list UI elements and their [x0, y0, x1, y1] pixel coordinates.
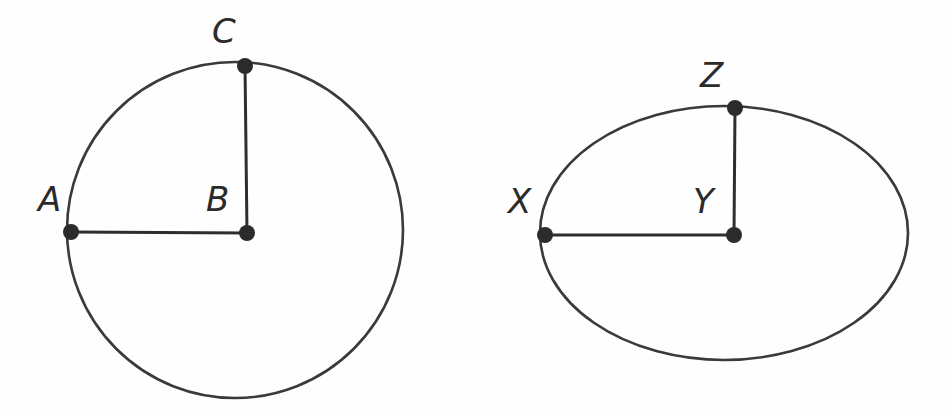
point-z-label: Z [700, 58, 723, 92]
segment-ab [71, 232, 247, 233]
point-x-dot [537, 227, 553, 243]
circle-figure [63, 58, 403, 398]
point-b-dot [239, 225, 255, 241]
point-a-label: A [38, 182, 61, 216]
point-c-dot [237, 58, 253, 74]
point-b-label: B [206, 182, 229, 216]
circle-outline [67, 62, 403, 398]
geometry-diagram-svg [0, 0, 951, 416]
ellipse-figure [537, 100, 908, 360]
point-y-label: Y [693, 184, 714, 218]
point-z-dot [727, 100, 743, 116]
segment-cb [245, 66, 247, 233]
figure-canvas: A B C X Y Z [0, 0, 951, 416]
point-y-dot [726, 227, 742, 243]
point-a-dot [63, 224, 79, 240]
ellipse-outline [540, 106, 908, 360]
point-x-label: X [508, 184, 531, 218]
segment-zy [734, 108, 735, 235]
point-c-label: C [212, 14, 236, 48]
